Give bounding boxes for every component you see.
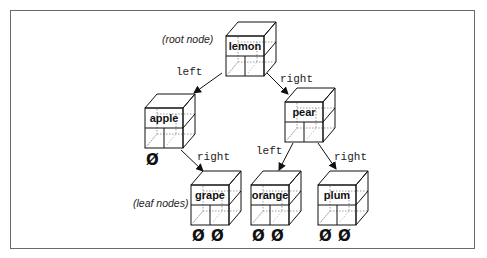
null-pointer-icon: Ø xyxy=(252,227,265,245)
null-pointer-icon: Ø xyxy=(146,151,159,169)
node-label: orange xyxy=(252,189,289,201)
node-apple: apple xyxy=(145,94,195,148)
leaf-nodes-annotation: (leaf nodes) xyxy=(133,197,188,209)
node-label: pear xyxy=(292,106,316,118)
null-pointer-icon: Ø xyxy=(192,227,205,245)
binary-tree-diagram: (root node) (leaf nodes) left right righ… xyxy=(0,0,487,258)
node-plum: plum xyxy=(318,171,368,225)
null-pointer-icon: Ø xyxy=(211,227,224,245)
node-label: lemon xyxy=(229,40,262,52)
node-lemon: lemon xyxy=(226,22,276,76)
edge-label: right xyxy=(197,151,230,163)
null-pointer-icon: Ø xyxy=(271,227,284,245)
null-pointer-icon: Ø xyxy=(319,227,332,245)
node-label: apple xyxy=(150,112,179,124)
edge-label: left xyxy=(176,66,202,78)
node-grape: grape xyxy=(191,171,241,225)
node-label: plum xyxy=(324,189,350,201)
edge-lemon-apple: left xyxy=(176,66,222,93)
edge-label: right xyxy=(334,151,367,163)
node-pear: pear xyxy=(285,88,335,142)
null-pointer-icon: Ø xyxy=(338,227,351,245)
root-node-annotation: (root node) xyxy=(162,33,213,45)
edge-apple-grape: right xyxy=(181,150,230,171)
edge-pear-plum: right xyxy=(318,143,367,169)
edge-pear-orange: left xyxy=(256,143,293,170)
node-label: grape xyxy=(195,189,225,201)
edge-label: right xyxy=(280,73,313,85)
node-orange: orange xyxy=(251,171,301,225)
edge-label: left xyxy=(256,145,282,157)
